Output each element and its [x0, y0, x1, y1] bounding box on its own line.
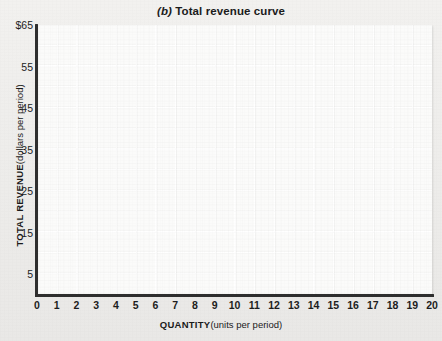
y-tick-label: $65: [0, 19, 33, 31]
y-axis-title-bold: TOTAL REVENUE: [14, 164, 25, 246]
x-tick-label: 8: [192, 299, 198, 311]
x-tick-label: 11: [249, 299, 260, 311]
figure-panel: (b) Total revenue curve $6555453525155 0…: [0, 0, 442, 341]
x-tick-label: 4: [113, 299, 119, 311]
y-axis-title: TOTAL REVENUE(dollars per period): [14, 51, 25, 281]
x-tick-label: 20: [426, 299, 438, 311]
grid-texture: [37, 25, 432, 295]
y-axis-title-light: (dollars per period): [14, 84, 25, 164]
panel-letter: (b): [157, 5, 172, 17]
x-tick-label: 16: [347, 299, 359, 311]
x-tick-label: 13: [288, 299, 300, 311]
x-tick-label: 12: [268, 299, 280, 311]
x-tick-label: 10: [229, 299, 241, 311]
x-tick-label: 2: [74, 299, 80, 311]
x-tick-label: 19: [406, 299, 418, 311]
x-tick-label: 18: [387, 299, 399, 311]
x-tick-label: 9: [212, 299, 218, 311]
x-tick-label: 6: [153, 299, 159, 311]
x-tick-label: 0: [34, 299, 40, 311]
x-tick-label: 17: [367, 299, 379, 311]
x-tick-label: 1: [54, 299, 60, 311]
x-tick-label: 7: [172, 299, 178, 311]
x-axis-title-light: (units per period): [210, 319, 282, 330]
x-tick-label: 3: [93, 299, 99, 311]
x-tick-label: 15: [327, 299, 339, 311]
x-axis-title: QUANTITY(units per period): [0, 319, 442, 330]
x-tick-label: 14: [308, 299, 320, 311]
y-axis-line: [35, 24, 38, 297]
plot-area: [37, 25, 432, 295]
chart-title: (b) Total revenue curve: [0, 5, 442, 17]
x-axis-line: [35, 294, 434, 297]
x-tick-label: 5: [133, 299, 139, 311]
x-axis-title-bold: QUANTITY: [160, 319, 211, 330]
x-axis-tick-labels: 01234567891011121314151617181920: [0, 299, 442, 313]
chart-title-text: Total revenue curve: [172, 5, 285, 17]
